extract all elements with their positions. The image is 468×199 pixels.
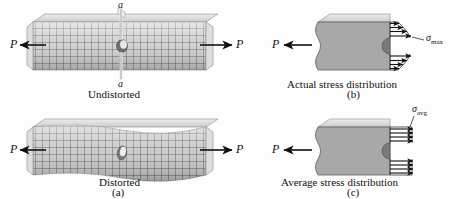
caption-average-stress: Average stress distribution [281, 177, 398, 188]
subcaption-a: (a) [112, 187, 124, 198]
force-label-left-average: P [272, 143, 279, 155]
force-label-right-undistorted: P [236, 38, 243, 50]
force-label-left-distorted: P [10, 143, 17, 155]
section-label-a-top: a [118, 0, 123, 10]
panel-undistorted-bar [20, 8, 232, 80]
figure-graphics [0, 0, 468, 199]
sigma-max-subscript: max [431, 38, 443, 46]
figure-canvas: P P a a Undistorted P P Distorted (a) P … [0, 0, 468, 199]
subcaption-c: (c) [347, 187, 359, 198]
subcaption-b: (b) [347, 89, 360, 100]
caption-actual-stress: Actual stress distribution [287, 79, 397, 90]
force-label-left-undistorted: P [10, 38, 17, 50]
force-label-right-distorted: P [236, 143, 243, 155]
force-label-left-actual: P [272, 38, 279, 50]
sigma-max-label: σmax [426, 33, 443, 46]
caption-undistorted: Undistorted [88, 89, 140, 100]
panel-actual-stress [284, 14, 424, 70]
panel-distorted-bar [20, 119, 232, 181]
sigma-avg-label: σavg [412, 104, 427, 117]
sigma-avg-subscript: avg [417, 109, 427, 117]
panel-average-stress [284, 116, 414, 175]
